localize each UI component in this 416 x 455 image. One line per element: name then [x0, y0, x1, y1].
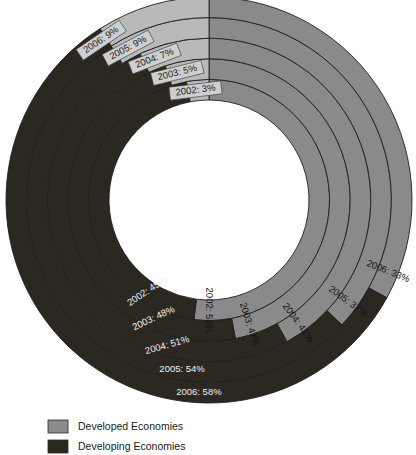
- ring-bottom-label-2006: 2006: 58%: [176, 386, 222, 397]
- legend-item-developing-economies[interactable]: Developing Economies: [48, 440, 185, 453]
- legend-item-developed-economies[interactable]: Developed Economies: [48, 420, 183, 433]
- legend-label-developing: Developing Economies: [78, 440, 185, 452]
- rings-group: [6, 0, 412, 403]
- ring-right-label-2002: 2002: 52%: [204, 288, 215, 334]
- ring-bottom-label-2005: 2005: 54%: [159, 363, 205, 374]
- concentric-donut-chart: 2002: 3%2002: 52%2002: 45%2003: 5%2003: …: [0, 0, 416, 455]
- donut-chart-figure: 2002: 3%2002: 52%2002: 45%2003: 5%2003: …: [0, 0, 416, 455]
- legend-label-developed: Developed Economies: [78, 420, 183, 432]
- legend-swatch-developed: [48, 420, 68, 433]
- legend-swatch-developing: [48, 440, 68, 453]
- chart-legend: Developed EconomiesDeveloping Economies: [48, 420, 185, 453]
